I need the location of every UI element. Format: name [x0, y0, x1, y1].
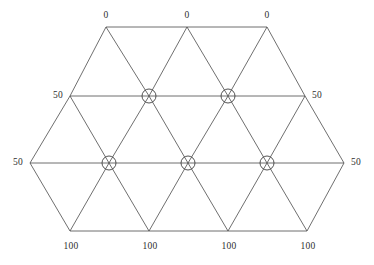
axis-label-top: 0: [265, 11, 270, 21]
mesh-diagonal-line: [228, 163, 267, 231]
axis-label-bottom: 100: [301, 242, 316, 252]
diagonal-lines-group: [30, 27, 344, 231]
node-markers-group: [102, 89, 274, 170]
mesh-diagonal-line: [305, 96, 344, 163]
axis-label-upper-side: 50: [312, 91, 322, 101]
mesh-diagonal-line: [70, 163, 109, 231]
mesh-diagonal-line: [188, 96, 228, 163]
mesh-diagonal-line: [70, 96, 109, 163]
mesh-diagonal-line: [70, 27, 106, 96]
axis-label-bottom: 100: [143, 242, 158, 252]
axis-label-middle-side: 50: [351, 158, 361, 168]
mesh-diagonal-line: [106, 27, 149, 96]
mesh-diagonal-line: [228, 96, 267, 163]
mesh-diagonal-line: [30, 96, 70, 163]
mesh-diagonal-line: [149, 27, 187, 96]
mesh-svg: [0, 0, 374, 265]
mesh-diagonal-line: [267, 96, 305, 163]
mesh-diagonal-line: [267, 27, 305, 96]
axis-label-bottom: 100: [64, 242, 79, 252]
mesh-diagonal-line: [267, 163, 307, 231]
axis-label-top: 0: [185, 11, 190, 21]
mesh-diagonal-line: [30, 163, 70, 231]
axis-label-bottom: 100: [222, 242, 237, 252]
horizontal-lines-group: [30, 27, 344, 231]
axis-label-upper-side: 50: [53, 91, 63, 101]
mesh-diagonal-line: [149, 96, 188, 163]
mesh-figure: 00050505050100100100100: [0, 0, 374, 265]
axis-label-middle-side: 50: [13, 158, 23, 168]
mesh-diagonal-line: [187, 27, 228, 96]
mesh-diagonal-line: [149, 163, 188, 231]
mesh-diagonal-line: [188, 163, 228, 231]
mesh-diagonal-line: [109, 163, 149, 231]
mesh-diagonal-line: [109, 96, 149, 163]
mesh-diagonal-line: [228, 27, 267, 96]
axis-label-top: 0: [104, 11, 109, 21]
mesh-diagonal-line: [307, 163, 344, 231]
